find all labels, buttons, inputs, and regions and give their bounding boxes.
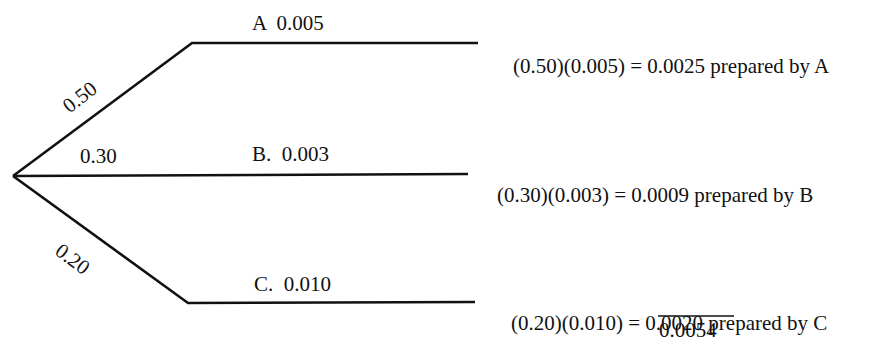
node-label-c: C. 0.010 <box>254 274 331 295</box>
node-label-a: A 0.005 <box>252 13 324 34</box>
result-suffix-b: prepared by B <box>689 183 813 207</box>
result-value-b: 0.0009 <box>631 183 689 207</box>
total-value: 0.0054 <box>659 320 717 341</box>
result-suffix-c: prepared by C <box>703 311 827 335</box>
node-label-b: B. 0.003 <box>252 144 329 165</box>
branch-line-b <box>13 174 468 176</box>
result-b: (0.30)(0.003) = 0.0009 prepared by B <box>476 164 813 227</box>
branch-line-c <box>13 176 475 303</box>
result-suffix-a: prepared by A <box>705 54 829 78</box>
probability-tree-diagram: 0.50 0.30 0.20 A 0.005 B. 0.003 C. 0.010… <box>0 0 894 351</box>
result-a: (0.50)(0.005) = 0.0025 prepared by A <box>492 35 829 98</box>
result-expr-a: (0.50)(0.005) = <box>513 54 647 78</box>
result-expr-c: (0.20)(0.010) = <box>511 311 645 335</box>
result-expr-b: (0.30)(0.003) = <box>497 183 631 207</box>
result-value-a: 0.0025 <box>647 54 705 78</box>
prior-label-b: 0.30 <box>80 146 117 167</box>
